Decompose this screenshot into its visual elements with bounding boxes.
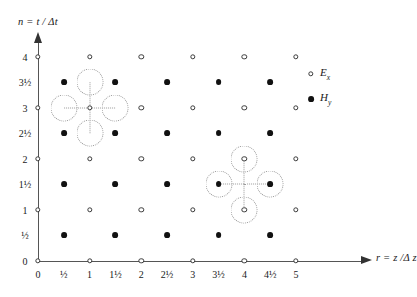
hy-node <box>61 232 67 238</box>
ex-node <box>242 258 247 263</box>
y-axis-line <box>38 42 39 262</box>
ex-node <box>138 258 143 263</box>
legend-hy-label: Hy <box>320 91 331 106</box>
ex-node <box>293 258 298 263</box>
x-axis-arrow-icon <box>361 256 372 264</box>
hy-node <box>216 232 222 238</box>
y-tick-label: 2½ <box>19 128 32 139</box>
y-tick-label: 3 <box>23 102 28 113</box>
hy-node <box>112 232 118 238</box>
hy-node <box>216 181 222 187</box>
ex-node <box>190 156 195 161</box>
ex-node <box>138 54 143 59</box>
ex-node <box>35 54 40 59</box>
x-tick-label: 0 <box>36 269 41 280</box>
y-tick-label: 4 <box>23 51 28 62</box>
ex-node <box>87 105 92 110</box>
hy-node <box>267 130 273 136</box>
y-tick-label: 1½ <box>19 179 32 190</box>
stencil-connector <box>89 108 90 134</box>
ex-node <box>190 258 195 263</box>
hy-node <box>164 79 170 85</box>
x-tick-label: 4½ <box>264 269 277 280</box>
ex-node <box>87 54 92 59</box>
y-tick-label: ½ <box>21 230 29 241</box>
hy-node <box>61 130 67 136</box>
hy-node <box>164 232 170 238</box>
y-tick-label: 2 <box>23 153 28 164</box>
hy-node <box>112 130 118 136</box>
x-tick-label: 1 <box>87 269 92 280</box>
ex-node <box>242 54 247 59</box>
x-tick-label: 2½ <box>161 269 174 280</box>
ex-node <box>138 105 143 110</box>
legend-filled-circle-icon <box>308 96 314 102</box>
hy-node <box>267 181 273 187</box>
x-tick-label: 5 <box>294 269 299 280</box>
ex-node <box>35 156 40 161</box>
stencil-connector <box>89 82 90 108</box>
hy-node <box>61 79 67 85</box>
ex-node <box>293 105 298 110</box>
ex-node <box>293 156 298 161</box>
ex-node <box>190 54 195 59</box>
ex-node <box>35 105 40 110</box>
hy-node <box>267 232 273 238</box>
ex-node <box>87 156 92 161</box>
stencil-connector <box>219 184 245 185</box>
stencil-connector <box>90 107 116 108</box>
stencil-connector <box>64 107 90 108</box>
ex-node <box>242 105 247 110</box>
x-tick-label: ½ <box>60 269 68 280</box>
ex-node <box>87 207 92 212</box>
x-axis-label: r = z /Δ z <box>376 252 417 263</box>
hy-node <box>216 130 222 136</box>
x-tick-label: 2 <box>139 269 144 280</box>
hy-node <box>216 79 222 85</box>
x-tick-label: 1½ <box>109 269 122 280</box>
ex-node <box>190 207 195 212</box>
ex-node <box>138 156 143 161</box>
ex-node <box>87 258 92 263</box>
y-tick-label: 3½ <box>19 77 32 88</box>
y-tick-label: 1 <box>23 204 28 215</box>
x-tick-label: 4 <box>242 269 247 280</box>
hy-node <box>164 130 170 136</box>
legend-ex-label: Ex <box>320 66 330 81</box>
ex-node <box>190 105 195 110</box>
y-tick-label: 0 <box>23 255 28 266</box>
y-axis-label: n = t / Δt <box>18 16 58 27</box>
ex-node <box>35 207 40 212</box>
ex-node <box>138 207 143 212</box>
hy-node <box>112 181 118 187</box>
ex-node <box>293 54 298 59</box>
ex-node <box>35 258 40 263</box>
x-tick-label: 3 <box>190 269 195 280</box>
stencil-connector <box>244 184 245 210</box>
hy-node <box>112 79 118 85</box>
y-axis-arrow-icon <box>34 32 42 43</box>
legend-open-circle-icon <box>308 71 313 76</box>
ex-node <box>293 207 298 212</box>
hy-node <box>267 79 273 85</box>
x-tick-label: 3½ <box>212 269 225 280</box>
stencil-connector <box>244 159 245 185</box>
hy-node <box>164 181 170 187</box>
hy-node <box>61 181 67 187</box>
